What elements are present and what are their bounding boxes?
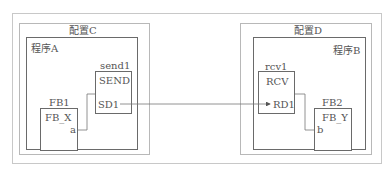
wire-fb1-to-send1	[78, 94, 95, 130]
connection-wires	[0, 0, 392, 189]
wire-rcv1-to-fb2	[295, 94, 314, 130]
